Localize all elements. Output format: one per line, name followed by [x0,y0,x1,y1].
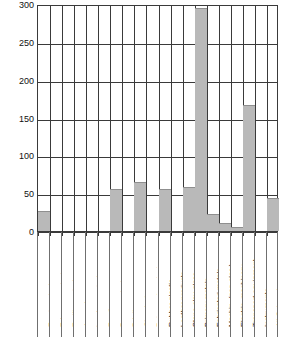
bar [219,223,231,231]
y-axis-tick-label: 300 [2,1,34,10]
y-axis-tick-label: 150 [2,114,34,123]
bar-slot [110,4,122,231]
y-axis-tick-label: 250 [2,38,34,47]
bar-slot [195,4,207,231]
bar-slot [146,4,158,231]
x-axis-tick [110,232,111,236]
bar-slot [183,4,195,231]
category-label-cell: Paper products [109,232,121,337]
y-axis-tick-label: 100 [2,152,34,161]
bar [231,227,243,231]
bar [207,214,219,231]
x-axis-tick [231,232,232,236]
x-axis-tick [134,232,135,236]
y-axis-tick-label: 50 [2,190,34,199]
category-label-strip: Food productsTobacco productsTextile pro… [37,232,278,341]
category-label-cell: Chemicals [133,232,145,337]
bar [159,189,171,231]
category-label-cell: Printing [121,232,133,337]
category-label-cell: Fabricated metals [206,232,218,337]
x-axis-tick [171,232,172,236]
x-axis-tick [50,232,51,236]
x-axis-tick [243,232,244,236]
category-label-cell: Instruments [254,232,266,337]
bar [38,211,50,231]
bar-slot [267,4,279,231]
bar-slot [231,4,243,231]
category-label: All Categories [275,281,278,327]
x-axis-tick [267,232,268,236]
bar [134,182,146,231]
x-axis-tick [255,232,256,236]
bar [110,189,122,231]
bar [267,198,279,231]
x-axis-tick [122,232,123,236]
bar-slot [62,4,74,231]
x-axis-tick [86,232,87,236]
category-label-cell: All Categories [266,232,278,337]
bar-slot [122,4,134,231]
x-axis-tick [219,232,220,236]
x-axis-tick [207,232,208,236]
x-axis-tick [38,232,39,236]
category-label-cell: Stone-clay-glass [182,232,194,337]
category-label-cell: Machin. (non-elec.) [218,232,230,337]
bar-series [38,6,277,231]
category-label-cell: Furniture [97,232,109,337]
bar-slot [38,4,50,231]
bar-slot [159,4,171,231]
y-axis-tick-label: 0 [2,228,34,237]
category-label-cell: Tobacco products [49,232,61,337]
bar [243,105,255,231]
bar [195,8,207,231]
x-axis-tick [159,232,160,236]
y-axis: 300250200150100500 [0,0,34,341]
x-axis-tick [98,232,99,236]
x-axis-tick [183,232,184,236]
bar-slot [50,4,62,231]
category-label-cell: Transport equipment [242,232,254,337]
bar-slot [171,4,183,231]
category-label-cell: Electric. machinery [230,232,242,337]
category-label-cell: Leather products [170,232,182,337]
bar-slot [219,4,231,231]
category-label-cell: Lumber products [85,232,97,337]
bar-slot [134,4,146,231]
category-label-cell: Textile products [61,232,73,337]
plot-area [37,5,278,232]
bar-slot [98,4,110,231]
bar-chart: 300250200150100500 Food productsTobacco … [0,0,286,341]
x-axis-tick [74,232,75,236]
bar-slot [207,4,219,231]
category-label-cell: Primary metals [194,232,206,337]
x-axis-tick [62,232,63,236]
bar [183,187,195,231]
category-label-cell: Apparel [73,232,85,337]
bar-slot [86,4,98,231]
x-axis-tick [146,232,147,236]
bar-slot [243,4,255,231]
category-label-cell: Food products [37,232,49,337]
category-label-cell: Petro-coal products [145,232,157,337]
bar-slot [74,4,86,231]
x-axis-tick [195,232,196,236]
category-label-cell: Rubber-plastic [158,232,170,337]
bar-slot [255,4,267,231]
y-axis-tick-label: 200 [2,76,34,85]
